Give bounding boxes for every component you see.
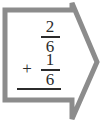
numerator: 2 bbox=[46, 19, 55, 35]
answer-rule-line bbox=[17, 88, 61, 90]
arrow-problem-card: 2 6 + 1 6 bbox=[0, 0, 102, 122]
numerator: 1 bbox=[46, 52, 55, 68]
fraction-second-term: 1 6 bbox=[40, 52, 60, 88]
plus-operator: + bbox=[19, 60, 35, 78]
denominator: 6 bbox=[46, 72, 55, 88]
math-problem: 2 6 + 1 6 bbox=[0, 0, 102, 122]
